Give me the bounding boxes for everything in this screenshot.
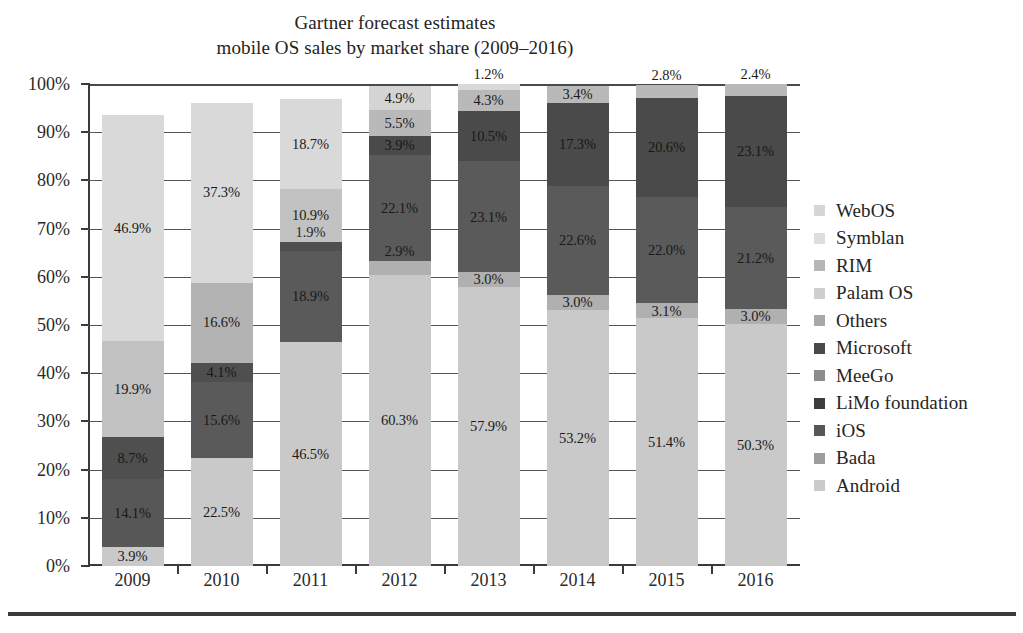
bar-segment-symblan[interactable]: 4.9% xyxy=(369,86,431,110)
bar-segment-rim[interactable]: 3.4% xyxy=(547,86,609,102)
bar-segment-android[interactable]: 50.3% xyxy=(725,324,787,566)
bar-segment-symblan[interactable]: 18.7% xyxy=(280,99,342,189)
y-axis-tick-label: 20% xyxy=(37,459,70,480)
bar-segment-microsoft[interactable]: 10.5% xyxy=(458,111,520,162)
bar-segment-microsoft[interactable]: 20.6% xyxy=(636,98,698,197)
legend-item-limo-foundation[interactable]: LiMo foundation xyxy=(814,390,1014,418)
legend-item-webos[interactable]: WebOS xyxy=(814,197,1014,225)
bar-segment-ios[interactable]: 22.0% xyxy=(636,197,698,303)
bar-segment-value-label: 22.1% xyxy=(381,201,418,216)
bar-group-2012[interactable]: 4.9%5.5%3.9%22.1%2.9%60.3% xyxy=(355,84,444,566)
bar-segment-value-label: 2.8% xyxy=(652,68,682,83)
bar-segment-bada[interactable]: 3.0% xyxy=(458,272,520,286)
stacked-bar[interactable]: 4.9%5.5%3.9%22.1%2.9%60.3% xyxy=(369,86,431,566)
bar-segment-rim[interactable]: 2.4% xyxy=(725,84,787,96)
legend-item-others[interactable]: Others xyxy=(814,307,1014,335)
x-axis-tick-mark xyxy=(177,566,179,574)
bar-segment-value-label: 3.0% xyxy=(741,309,771,324)
legend-label: Palam OS xyxy=(836,282,913,304)
stacked-bar[interactable]: 1.2%4.3%10.5%23.1%3.0%57.9% xyxy=(458,84,520,566)
bar-segment-value-label: 1.2% xyxy=(474,67,504,82)
stacked-bar[interactable]: 37.3%16.6%4.1%15.6%22.5% xyxy=(191,103,253,566)
x-axis-tick-label: 2011 xyxy=(293,570,328,591)
legend-item-bada[interactable]: Bada xyxy=(814,445,1014,473)
bar-segment-rim[interactable]: 19.9% xyxy=(102,341,164,437)
bar-segment-ios[interactable]: 22.6% xyxy=(547,186,609,295)
bar-segment-android[interactable]: 60.3% xyxy=(369,275,431,566)
bar-segment-ios[interactable]: 14.1% xyxy=(102,479,164,547)
stacked-bar[interactable]: 18.7%10.9%1.9%18.9%46.5% xyxy=(280,99,342,566)
bar-segment-ios[interactable]: 15.6% xyxy=(191,382,253,457)
bar-segment-android[interactable]: 53.2% xyxy=(547,310,609,566)
bar-segment-ios[interactable]: 23.1% xyxy=(458,161,520,272)
legend-label: Symblan xyxy=(836,227,904,249)
legend-item-rim[interactable]: RIM xyxy=(814,252,1014,280)
legend-swatch-icon xyxy=(814,398,825,409)
bar-segment-symblan[interactable]: 37.3% xyxy=(191,103,253,283)
legend-item-android[interactable]: Android xyxy=(814,472,1014,500)
bar-segment-ios[interactable]: 21.2% xyxy=(725,207,787,309)
stacked-bar[interactable]: 3.4%17.3%22.6%3.0%53.2% xyxy=(547,86,609,566)
bar-group-2010[interactable]: 37.3%16.6%4.1%15.6%22.5% xyxy=(177,84,266,566)
legend-label: Microsoft xyxy=(836,337,912,359)
bar-group-2016[interactable]: 2.4%23.1%21.2%3.0%50.3% xyxy=(711,84,800,566)
legend-label: iOS xyxy=(836,420,866,442)
bar-segment-value-label: 14.1% xyxy=(114,506,151,521)
bar-segment-bada[interactable]: 2.9% xyxy=(369,261,431,275)
legend-label: RIM xyxy=(836,255,872,277)
bar-segment-ios[interactable]: 18.9% xyxy=(280,251,342,342)
stacked-bar[interactable]: 2.8%20.6%22.0%3.1%51.4% xyxy=(636,85,698,566)
bar-segment-microsoft[interactable]: 3.9% xyxy=(369,136,431,155)
bar-group-2014[interactable]: 3.4%17.3%22.6%3.0%53.2% xyxy=(533,84,622,566)
bar-segment-value-label: 18.7% xyxy=(292,137,329,152)
legend-item-palam-os[interactable]: Palam OS xyxy=(814,280,1014,308)
bar-segment-value-label: 60.3% xyxy=(381,413,418,428)
bar-segment-android[interactable]: 22.5% xyxy=(191,458,253,566)
bar-group-2011[interactable]: 18.7%10.9%1.9%18.9%46.5% xyxy=(266,84,355,566)
bar-segment-bada[interactable]: 3.1% xyxy=(636,303,698,318)
bar-segment-android[interactable]: 57.9% xyxy=(458,287,520,566)
bar-segment-rim[interactable]: 16.6% xyxy=(191,283,253,363)
chart-legend: WebOSSymblanRIMPalam OSOthersMicrosoftMe… xyxy=(814,197,1014,500)
bar-segment-symblan[interactable]: 46.9% xyxy=(102,115,164,341)
bar-segment-microsoft[interactable]: 4.1% xyxy=(191,363,253,383)
legend-swatch-icon xyxy=(814,233,825,244)
bar-segment-value-label: 3.9% xyxy=(118,549,148,564)
bar-group-2009[interactable]: 46.9%19.9%8.7%14.1%3.9% xyxy=(88,84,177,566)
stacked-bar[interactable]: 2.4%23.1%21.2%3.0%50.3% xyxy=(725,84,787,566)
bar-group-2015[interactable]: 2.8%20.6%22.0%3.1%51.4% xyxy=(622,84,711,566)
legend-item-meego[interactable]: MeeGo xyxy=(814,362,1014,390)
x-axis-tick-mark xyxy=(355,566,357,574)
bar-segment-value-label: 2.4% xyxy=(741,67,771,82)
bar-segment-android[interactable]: 51.4% xyxy=(636,318,698,566)
bar-segment-value-label: 10.9% xyxy=(292,208,329,223)
x-axis-tick-mark xyxy=(622,566,624,574)
bar-segment-value-label: 3.0% xyxy=(563,295,593,310)
bar-segment-rim[interactable]: 5.5% xyxy=(369,110,431,137)
bar-segment-value-label: 5.5% xyxy=(385,116,415,131)
bar-segment-android[interactable]: 3.9% xyxy=(102,547,164,566)
x-axis-tick-label: 2016 xyxy=(738,570,774,591)
bar-segment-rim[interactable]: 4.3% xyxy=(458,90,520,111)
bar-segment-microsoft[interactable]: 1.9% xyxy=(280,242,342,251)
bar-group-2013[interactable]: 1.2%4.3%10.5%23.1%3.0%57.9% xyxy=(444,84,533,566)
x-axis-tick-label: 2013 xyxy=(471,570,507,591)
bar-segment-microsoft[interactable]: 8.7% xyxy=(102,437,164,479)
legend-item-microsoft[interactable]: Microsoft xyxy=(814,335,1014,363)
bar-segment-bada[interactable]: 3.0% xyxy=(725,309,787,323)
x-axis-tick-mark xyxy=(444,566,446,574)
bar-segment-bada[interactable]: 3.0% xyxy=(547,295,609,309)
x-axis: 20092010201120122013201420152016 xyxy=(88,570,800,600)
bar-segment-rim[interactable]: 2.8% xyxy=(636,85,698,98)
bar-segment-value-label: 37.3% xyxy=(203,185,240,200)
legend-item-ios[interactable]: iOS xyxy=(814,417,1014,445)
stacked-bar[interactable]: 46.9%19.9%8.7%14.1%3.9% xyxy=(102,115,164,566)
bar-segment-microsoft[interactable]: 17.3% xyxy=(547,103,609,186)
bar-segment-microsoft[interactable]: 23.1% xyxy=(725,96,787,207)
legend-label: WebOS xyxy=(836,200,895,222)
legend-item-symblan[interactable]: Symblan xyxy=(814,225,1014,253)
bar-segment-android[interactable]: 46.5% xyxy=(280,342,342,566)
legend-swatch-icon xyxy=(814,288,825,299)
y-axis-tick-label: 70% xyxy=(37,218,70,239)
bar-segment-value-label: 23.1% xyxy=(737,144,774,159)
